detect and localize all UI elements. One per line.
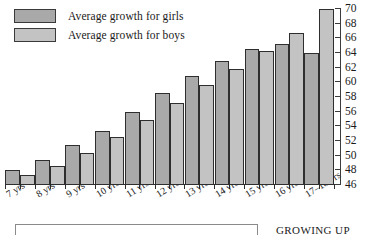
bar (245, 49, 260, 185)
bar (5, 170, 20, 185)
y-axis-label: 56 (345, 105, 357, 117)
y-axis: 46485052545658606264666870 (334, 0, 374, 189)
bar (65, 145, 80, 185)
y-tick (335, 140, 341, 141)
y-tick (335, 169, 341, 170)
bar (110, 137, 125, 185)
y-axis-label: 46 (345, 178, 357, 190)
bar (259, 51, 274, 185)
bar (304, 53, 319, 185)
y-tick (335, 111, 341, 112)
bar (289, 33, 304, 185)
growth-bar-chart: Average growth for girls Average growth … (0, 0, 374, 235)
y-tick (335, 8, 341, 9)
y-axis-label: 64 (345, 46, 357, 58)
bar (155, 93, 170, 185)
y-axis-label: 58 (345, 90, 357, 102)
y-axis-label: 52 (345, 134, 357, 146)
bar (319, 9, 334, 185)
y-tick (335, 96, 341, 97)
bar (50, 166, 65, 185)
caption-label: GROWING UP (276, 224, 350, 235)
bar (35, 160, 50, 185)
bar (20, 175, 35, 185)
y-axis-label: 66 (345, 31, 357, 43)
caption-box (15, 224, 258, 235)
bar (95, 131, 110, 185)
bar (275, 44, 290, 185)
y-axis-label: 62 (345, 61, 357, 73)
y-tick (335, 155, 341, 156)
bar (80, 153, 95, 185)
y-axis-label: 50 (345, 149, 357, 161)
y-tick (335, 81, 341, 82)
y-tick (335, 184, 341, 185)
bar (170, 103, 185, 185)
y-tick (335, 125, 341, 126)
y-axis-label: 54 (345, 119, 357, 131)
y-axis-label: 48 (345, 163, 357, 175)
bar (125, 112, 140, 185)
y-tick (335, 67, 341, 68)
bar (199, 85, 214, 185)
bar (140, 120, 155, 185)
bar (229, 69, 244, 185)
y-tick (335, 37, 341, 38)
bar (215, 61, 230, 185)
y-axis-label: 70 (345, 2, 357, 14)
y-axis-label: 68 (345, 17, 357, 29)
y-tick (335, 52, 341, 53)
plot-area (5, 4, 334, 185)
bar (185, 76, 200, 185)
y-axis-label: 60 (345, 75, 357, 87)
y-tick (335, 23, 341, 24)
